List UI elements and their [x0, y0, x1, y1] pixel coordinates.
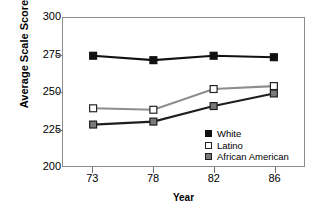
line-chart: Average Scale Score 300275250225200 7378… [0, 0, 331, 219]
y-tick-mark [55, 92, 62, 93]
y-tick-label: 200 [33, 160, 61, 172]
legend-label: African American [217, 151, 289, 163]
data-point-african-american [150, 118, 157, 125]
legend-item-white: White [205, 128, 289, 140]
data-point-white [210, 52, 217, 59]
legend-item-african-american: African American [205, 151, 289, 163]
data-point-latino [210, 86, 217, 93]
y-tick-label: 225 [33, 123, 61, 135]
data-point-african-american [90, 121, 97, 128]
series-line-white [93, 56, 274, 60]
data-point-african-american [270, 90, 277, 97]
x-tick-label: 73 [75, 172, 109, 184]
x-tick-label: 82 [197, 172, 231, 184]
y-tick-label: 250 [33, 85, 61, 97]
data-point-latino [150, 106, 157, 113]
legend-swatch-icon [205, 142, 212, 149]
data-point-white [90, 52, 97, 59]
x-tick-label: 86 [258, 172, 292, 184]
legend-swatch-icon [205, 130, 212, 137]
data-point-white [150, 57, 157, 64]
legend-label: Latino [217, 140, 243, 152]
y-tick-label: 300 [33, 10, 61, 22]
data-point-african-american [210, 103, 217, 110]
legend-item-latino: Latino [205, 140, 289, 152]
y-axis-title: Average Scale Score [18, 0, 30, 124]
data-point-white [270, 54, 277, 61]
y-tick-label: 275 [33, 48, 61, 60]
data-point-latino [270, 83, 277, 90]
legend-label: White [217, 128, 241, 140]
data-point-latino [90, 105, 97, 112]
series-line-latino [93, 86, 274, 110]
chart-legend: WhiteLatinoAfrican American [205, 128, 289, 163]
y-tick-mark [55, 55, 62, 56]
legend-swatch-icon [205, 153, 212, 160]
y-tick-mark [55, 130, 62, 131]
x-tick-label: 78 [136, 172, 170, 184]
x-axis-title: Year [62, 192, 305, 203]
